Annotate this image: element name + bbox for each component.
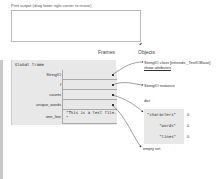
show-attributes-link[interactable]: show attributes	[144, 65, 171, 70]
dict-value: 0	[187, 112, 189, 117]
dict-label: dict	[144, 98, 150, 103]
var-value	[62, 70, 117, 80]
objects-header: Objects	[138, 49, 155, 55]
var-value	[62, 90, 117, 100]
frame-title: Global frame	[15, 62, 44, 67]
dict-value: 0	[187, 123, 189, 128]
stringio-instance-object: StringIO instance	[144, 83, 175, 88]
dict-key: "words"	[159, 123, 176, 128]
dict-key: "lines"	[159, 134, 176, 139]
print-output-label: Print output (drag lower right corner to…	[11, 3, 91, 8]
frame-row-unique-words: unique_words	[12, 100, 116, 110]
var-name: unique_words	[36, 102, 61, 107]
left-panel-edge	[0, 60, 3, 179]
var-value	[62, 100, 117, 110]
pointer-dot-icon	[112, 84, 114, 86]
var-name: StringIO	[46, 72, 61, 77]
frame-row-stringio: StringIO	[12, 70, 116, 80]
dict-key: "characters"	[147, 112, 176, 117]
frame-row-counts: counts	[12, 90, 116, 100]
empty-set-object: empty set	[143, 146, 160, 151]
resize-handle-icon[interactable]: ⬋	[139, 41, 142, 46]
pointer-dot-icon	[112, 74, 114, 76]
var-name: f	[60, 82, 61, 87]
pointer-dot-icon	[112, 94, 114, 96]
pointer-dot-icon	[112, 104, 114, 106]
print-output-box[interactable]: ⬋	[11, 10, 141, 42]
dict-object: "characters" 0 "words" 0 "lines" 0	[144, 109, 184, 144]
var-name: counts	[49, 92, 61, 97]
dict-value: 0	[187, 134, 189, 139]
string-value-line1: "This is a test file.	[66, 111, 117, 115]
frame-row-one-line: one_line "This is a test file. "	[12, 110, 116, 124]
frames-header: Frames	[98, 49, 115, 55]
frame-row-f: f	[12, 80, 116, 90]
var-value	[62, 80, 117, 90]
var-name: one_line	[46, 114, 61, 119]
global-frame: Global frame StringIO f counts unique_wo…	[11, 60, 116, 125]
var-value: "This is a test file. "	[62, 110, 117, 124]
string-value-line2: "	[66, 116, 68, 120]
